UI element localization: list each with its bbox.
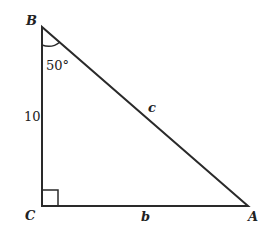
angle-b-label: 50° (46, 58, 69, 73)
triangle-diagram: B C A 50° 10 c b (0, 0, 270, 248)
side-bc-label: 10 (24, 109, 41, 124)
vertex-label-b: B (25, 13, 37, 28)
vertex-label-c: C (25, 208, 36, 223)
side-ca-label: b (141, 209, 150, 224)
angle-b-arc (42, 42, 60, 46)
right-angle-marker (42, 190, 58, 206)
side-ab-label: c (148, 100, 156, 115)
triangle-abc (42, 27, 248, 206)
vertex-label-a: A (246, 209, 258, 224)
